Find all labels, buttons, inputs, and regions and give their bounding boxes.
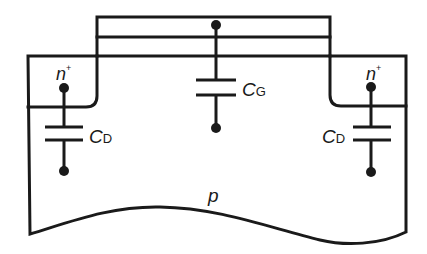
left-cd-body-dot bbox=[59, 166, 69, 176]
cg-label: CG bbox=[242, 79, 266, 100]
substrate-p-label: p bbox=[207, 185, 219, 206]
left-cd-label: CD bbox=[89, 126, 112, 147]
right-cd-body-dot bbox=[366, 167, 376, 177]
left-n-plus-label: n+ bbox=[56, 63, 71, 84]
right-cd-label: CD bbox=[322, 126, 345, 147]
mosfet-capacitance-diagram: CG n+ CD n+ CD p bbox=[0, 0, 427, 254]
cg-body-dot bbox=[211, 123, 221, 133]
right-n-plus-label: n+ bbox=[366, 63, 381, 84]
left-drain-capacitor: n+ CD bbox=[45, 63, 112, 176]
right-drain-capacitor: n+ CD bbox=[322, 63, 391, 177]
substrate-outline bbox=[28, 56, 406, 244]
